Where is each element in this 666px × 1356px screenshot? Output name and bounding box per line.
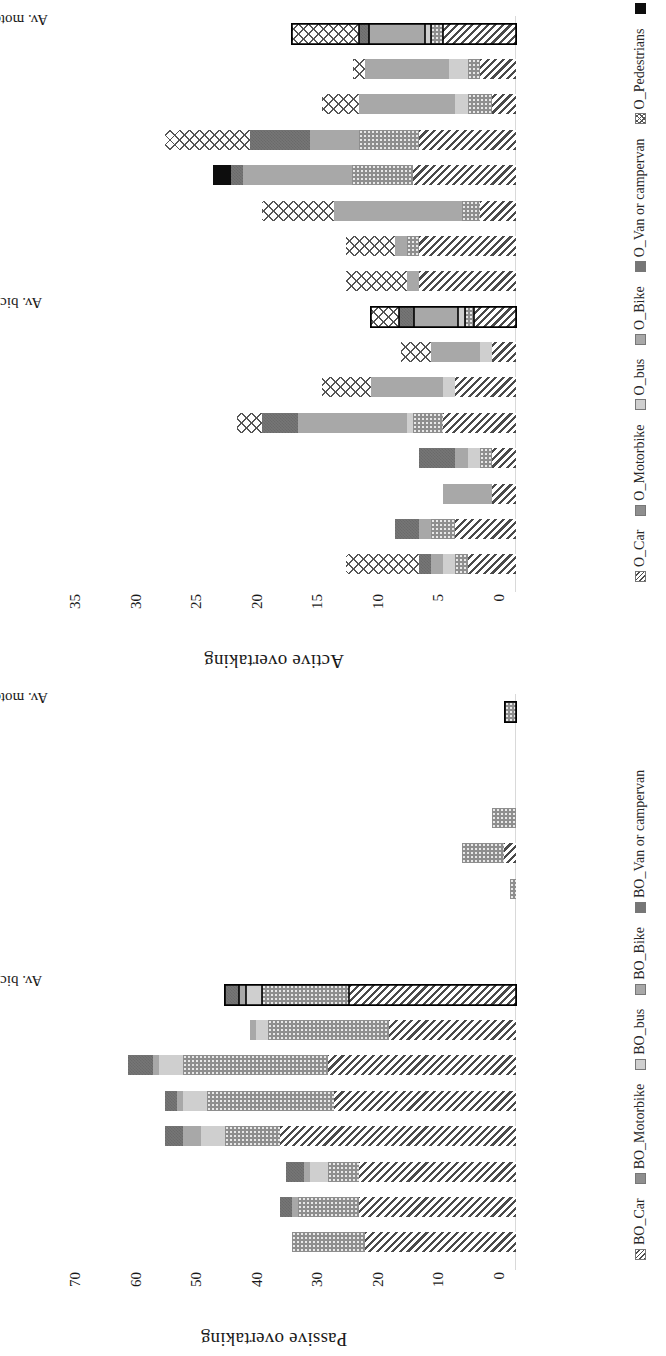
bar-segment — [505, 702, 516, 722]
bar-column[interactable] — [492, 808, 516, 828]
bar-segment — [183, 1091, 207, 1111]
bar-segment — [128, 1055, 152, 1075]
bar-column[interactable] — [292, 1232, 516, 1252]
bar-segment — [455, 94, 467, 114]
bar-segment — [165, 130, 250, 150]
bar-column[interactable] — [286, 1162, 516, 1182]
x-axis-label: 5M — [0, 117, 98, 134]
bar-segment — [401, 342, 431, 362]
bar-segment — [431, 24, 443, 44]
legend-label: O_bus — [632, 359, 648, 396]
legend-swatch-icon — [635, 1173, 646, 1184]
x-axis-label: 2M — [0, 223, 98, 240]
bar-segment — [458, 307, 465, 327]
bar-segment — [492, 808, 516, 828]
bar-column[interactable] — [128, 1055, 516, 1075]
bar-column[interactable] — [346, 236, 516, 256]
bar-segment — [225, 1126, 280, 1146]
bar-average[interactable] — [505, 702, 516, 722]
y-tick-label: 60 — [127, 1272, 144, 1318]
bar-column[interactable] — [395, 519, 516, 539]
bar-column[interactable] — [462, 843, 517, 863]
bar-column[interactable] — [213, 165, 516, 185]
bar-segment — [455, 448, 467, 468]
x-axis-label: 1M — [0, 258, 98, 275]
bar-segment — [359, 1197, 516, 1217]
bar-segment — [399, 307, 415, 327]
bar-column[interactable] — [237, 413, 516, 433]
legend-item: O_Bike — [632, 286, 648, 345]
legend-swatch-icon — [635, 113, 646, 124]
bar-column[interactable] — [250, 1020, 516, 1040]
bar-segment — [419, 130, 516, 150]
bar-column[interactable] — [322, 94, 516, 114]
bar-segment — [243, 165, 352, 185]
x-axis-label: 1M — [0, 936, 98, 953]
passive-bars — [92, 694, 516, 1260]
bar-segment — [419, 236, 516, 256]
bar-segment — [492, 94, 516, 114]
bar-column[interactable] — [262, 201, 516, 221]
bar-segment — [207, 1091, 334, 1111]
bar-segment — [353, 59, 365, 79]
bar-column[interactable] — [346, 271, 516, 291]
bar-column[interactable] — [510, 879, 516, 899]
y-tick-label: 70 — [67, 1272, 84, 1318]
bar-average[interactable] — [292, 24, 516, 44]
bar-segment — [280, 1126, 516, 1146]
bar-segment — [328, 1055, 516, 1075]
bar-segment — [231, 165, 243, 185]
bar-segment — [431, 342, 479, 362]
bar-segment — [395, 236, 407, 256]
bar-segment — [480, 448, 492, 468]
active-legend: O_CarO_MotorbikeO_busO_BikeO_Van or camp… — [632, 10, 648, 582]
legend-swatch-icon — [635, 334, 646, 345]
bar-column[interactable] — [401, 342, 516, 362]
bar-segment — [298, 413, 407, 433]
bar-average[interactable] — [371, 307, 516, 327]
bar-column[interactable] — [165, 130, 516, 150]
bar-segment — [359, 24, 370, 44]
x-axis-label: 1B — [0, 541, 98, 558]
bar-segment — [165, 1091, 177, 1111]
bar-segment — [237, 413, 261, 433]
bar-column[interactable] — [165, 1126, 516, 1146]
bar-segment — [407, 271, 419, 291]
bar-segment — [159, 1055, 183, 1075]
x-axis-label: 3B — [0, 1149, 98, 1166]
legend-label: O_Pedestrians — [632, 28, 648, 109]
bar-segment — [165, 1126, 183, 1146]
bar-segment — [443, 377, 455, 397]
bar-column[interactable] — [165, 1091, 516, 1111]
x-axis-label: 6M — [0, 759, 98, 776]
bar-segment — [462, 201, 480, 221]
bar-column[interactable] — [443, 484, 516, 504]
bar-segment — [369, 24, 425, 44]
legend-swatch-icon — [635, 399, 646, 410]
legend-item: BO_Motorbike — [632, 1084, 648, 1185]
x-axis-label: 2B — [0, 506, 98, 523]
bar-segment — [449, 59, 467, 79]
x-axis-label: 4B — [0, 435, 98, 452]
legend-item: O_Car — [632, 530, 648, 582]
bar-column[interactable] — [346, 554, 516, 574]
bar-column[interactable] — [353, 59, 517, 79]
bar-segment — [371, 377, 444, 397]
bar-segment — [346, 271, 407, 291]
y-tick-label: 15 — [309, 594, 326, 640]
bar-column[interactable] — [280, 1197, 516, 1217]
bar-segment — [395, 519, 419, 539]
bar-column[interactable] — [419, 448, 516, 468]
bar-segment — [455, 554, 467, 574]
bar-segment — [468, 94, 492, 114]
bar-segment — [480, 201, 516, 221]
legend-label: BO_bus — [632, 1009, 648, 1055]
y-tick-label: 40 — [248, 1272, 265, 1318]
x-axis-label: 7B — [0, 329, 98, 346]
legend-swatch-icon — [635, 984, 646, 995]
legend-swatch-icon — [635, 261, 646, 272]
bar-average[interactable] — [225, 985, 516, 1005]
bar-segment — [443, 484, 491, 504]
bar-segment — [359, 94, 456, 114]
bar-column[interactable] — [322, 377, 516, 397]
